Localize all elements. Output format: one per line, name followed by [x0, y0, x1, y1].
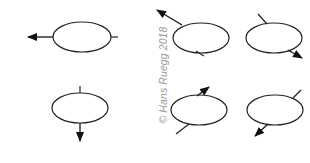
ellipse-group-bottom-left [52, 86, 108, 141]
ellipse [247, 95, 303, 125]
direction-arrow-icon [288, 50, 302, 58]
ellipse-group-top-left [28, 22, 118, 52]
tangent-line [176, 124, 189, 134]
ellipse-group-bottom-right [247, 90, 303, 136]
direction-arrow-icon [157, 10, 182, 25]
ellipse [52, 93, 108, 123]
ellipse-arrow-diagram [0, 0, 310, 163]
copyright-watermark: © Hans Ruegg 2018 [157, 27, 169, 124]
tangent-line [293, 90, 301, 98]
ellipse-group-bottom-middle [171, 87, 227, 134]
tangent-line [258, 14, 267, 24]
direction-arrow-icon [255, 124, 268, 136]
ellipse [173, 23, 229, 53]
ellipse [246, 23, 302, 53]
ellipse-group-top-right [246, 14, 302, 58]
ellipse [171, 95, 227, 125]
ellipse [53, 22, 111, 52]
